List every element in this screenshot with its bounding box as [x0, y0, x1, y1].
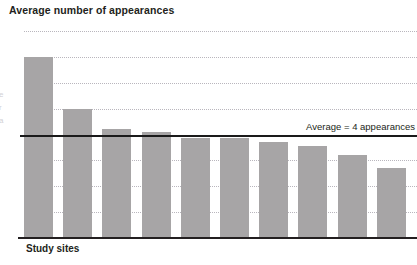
bar [220, 138, 249, 238]
average-reference-line [20, 135, 417, 137]
bar [142, 132, 171, 238]
x-axis-label: Study sites [26, 243, 79, 254]
bar [63, 109, 92, 238]
bar [24, 57, 53, 238]
bar [181, 138, 210, 238]
bar [102, 129, 131, 238]
bar [259, 142, 288, 238]
bar [377, 168, 406, 238]
bar-chart-figure: Average number of appearances e r a Aver… [0, 0, 417, 265]
chart-title: Average number of appearances [9, 4, 174, 16]
bar [298, 146, 327, 238]
x-axis-line [18, 237, 417, 239]
average-reference-label: Average = 4 appearances [306, 121, 415, 132]
page-margin-text-fragment: e r a [0, 88, 4, 127]
bar [338, 155, 367, 238]
